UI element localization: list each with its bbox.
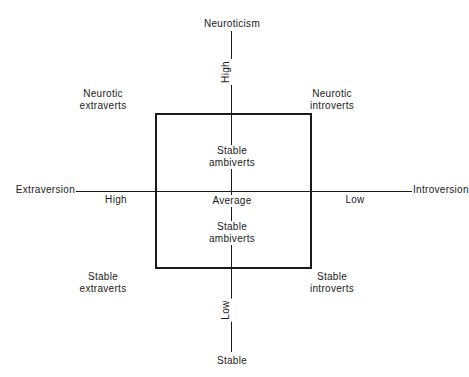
extraversion-high-label: High <box>105 194 127 206</box>
neurotic-introverts-line1: Neurotic <box>310 88 354 100</box>
introversion-low-label: Low <box>345 194 364 206</box>
stable-extraverts-label: Stable extraverts <box>80 271 127 295</box>
neurotic-introverts-label: Neurotic introverts <box>310 88 354 112</box>
stable-extraverts-line2: extraverts <box>80 283 127 295</box>
stable-ambiverts-lower: Stable ambiverts <box>207 221 257 245</box>
stable-ambiverts-lower-line2: ambiverts <box>209 233 255 245</box>
neuroticism-high-label: High <box>220 59 232 85</box>
stable-ambiverts-upper-line1: Stable <box>209 145 255 157</box>
stable-introverts-label: Stable introverts <box>310 271 354 295</box>
stable-axis-label: Stable <box>217 355 247 367</box>
neurotic-extraverts-line2: extraverts <box>80 100 127 112</box>
stable-ambiverts-upper-line2: ambiverts <box>209 157 255 169</box>
stable-ambiverts-lower-line1: Stable <box>209 221 255 233</box>
neurotic-extraverts-line1: Neurotic <box>80 88 127 100</box>
average-label: Average <box>210 195 253 207</box>
stable-extraverts-line1: Stable <box>80 271 127 283</box>
stable-introverts-line2: introverts <box>310 283 354 295</box>
introversion-axis-label: Introversion <box>413 184 469 196</box>
neuroticism-axis-label: Neuroticism <box>204 18 260 30</box>
stable-introverts-line1: Stable <box>310 271 354 283</box>
neuroticism-low-label: Low <box>220 298 232 321</box>
stable-ambiverts-upper: Stable ambiverts <box>207 145 257 169</box>
extraversion-axis-label: Extraversion <box>16 184 75 196</box>
neurotic-introverts-line2: introverts <box>310 100 354 112</box>
ambivert-region-box <box>155 113 312 269</box>
neurotic-extraverts-label: Neurotic extraverts <box>80 88 127 112</box>
